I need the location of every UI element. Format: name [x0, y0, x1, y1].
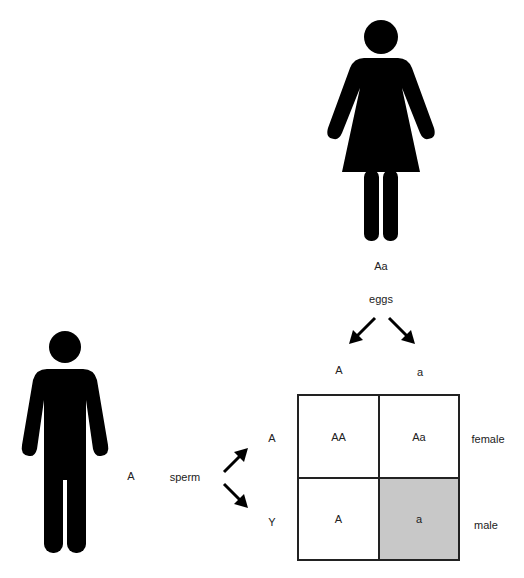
cell-AA: AA	[297, 394, 379, 478]
arrow-down-right-icon	[220, 480, 254, 514]
eggs-label: eggs	[369, 293, 393, 305]
punnett-square: AA Aa A a	[297, 394, 460, 561]
father-genotype: A	[127, 470, 134, 482]
male-figure-icon	[20, 328, 115, 558]
sperm-label: sperm	[170, 471, 201, 483]
egg-gamete-A: A	[335, 364, 342, 376]
sperm-gamete-A: A	[268, 432, 275, 444]
egg-gamete-a: a	[417, 366, 423, 378]
cell-a-shaded: a	[379, 478, 460, 561]
male-label: male	[474, 519, 498, 531]
female-label: female	[471, 433, 504, 445]
mother-genotype: Aa	[374, 260, 387, 272]
arrow-down-left-icon	[345, 312, 385, 352]
sperm-gamete-Y: Y	[268, 516, 275, 528]
cell-A: A	[297, 478, 379, 561]
arrow-down-right-icon	[383, 312, 423, 352]
cell-Aa: Aa	[379, 394, 460, 478]
female-figure-icon	[325, 15, 440, 245]
arrow-up-right-icon	[220, 444, 254, 478]
